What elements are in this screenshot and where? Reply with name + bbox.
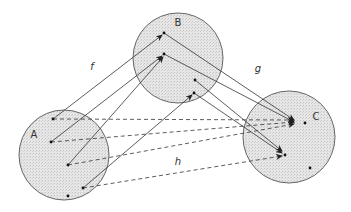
map-h-arrow: [83, 156, 282, 188]
map-h-label: h: [175, 156, 181, 167]
set-c-label: C: [313, 111, 320, 122]
map-f-arrow: [51, 56, 162, 142]
set-b-element: [163, 32, 166, 35]
sets-layer: [19, 13, 335, 200]
map-g-label: g: [255, 63, 261, 74]
map-f-label: f: [90, 61, 95, 72]
set-a-element: [50, 141, 53, 144]
set-c-element: [304, 122, 307, 125]
set-a-label: A: [31, 129, 38, 140]
set-a-element: [67, 164, 70, 167]
set-b-element: [163, 53, 166, 56]
set-a-element: [82, 187, 85, 190]
set-b-element: [194, 79, 197, 82]
function-composition-diagram: ABCfgh: [0, 0, 351, 212]
set-b-element: [193, 92, 196, 95]
map-f-arrow: [68, 57, 163, 165]
set-c-element: [284, 154, 287, 157]
set-c-circle: [243, 91, 335, 183]
set-b-label: B: [175, 17, 182, 28]
set-a-element: [67, 195, 70, 198]
set-a-circle: [19, 110, 109, 200]
set-c-element: [309, 167, 312, 170]
set-a-element: [52, 118, 55, 121]
